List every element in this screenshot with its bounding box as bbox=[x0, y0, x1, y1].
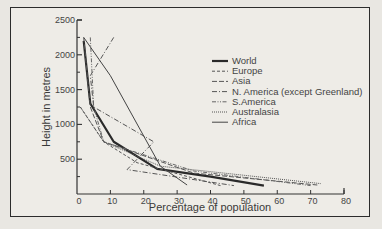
series-line-asia bbox=[84, 37, 318, 185]
x-tick-label: 70 bbox=[308, 196, 318, 206]
series-line-europe bbox=[80, 107, 220, 186]
y-axis-title: Height in metres bbox=[40, 66, 52, 147]
y-tick-label: 1000 bbox=[55, 119, 75, 129]
line-chart: 5001000150020002500 01020304050607080 Pe… bbox=[0, 0, 382, 229]
legend-label: Africa bbox=[232, 116, 257, 127]
y-tick-label: 2000 bbox=[55, 50, 75, 60]
x-tick-label: 10 bbox=[107, 196, 117, 206]
series-line-africa bbox=[84, 37, 187, 185]
x-tick-label: 80 bbox=[341, 196, 351, 206]
legend: WorldEuropeAsiaN. America (except Greenl… bbox=[212, 55, 362, 127]
y-tick-label: 2500 bbox=[55, 15, 75, 25]
x-tick-label: 0 bbox=[76, 196, 81, 206]
y-tick-label: 500 bbox=[60, 154, 75, 164]
x-axis-title: Percentage of population bbox=[149, 201, 271, 213]
y-tick-label: 1500 bbox=[55, 85, 75, 95]
x-tick-label: 60 bbox=[274, 196, 284, 206]
series-lines bbox=[80, 37, 320, 185]
y-ticks: 5001000150020002500 bbox=[55, 15, 82, 177]
legend-item: Africa bbox=[212, 116, 257, 127]
series-line-australasia bbox=[80, 107, 320, 184]
